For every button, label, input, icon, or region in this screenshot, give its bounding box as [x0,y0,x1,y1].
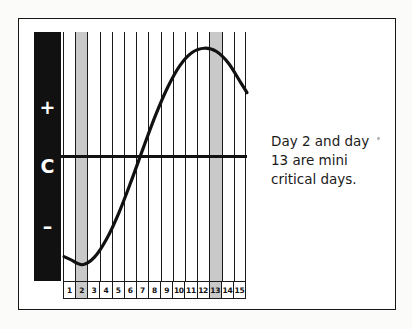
biorhythm-figure: + C – 123456789101112131415 Day 2 and da… [19,19,397,311]
day-label-1: 1 [64,282,76,298]
day-label-6: 6 [125,282,137,298]
day-label-11: 11 [185,282,197,298]
day-label-7: 7 [137,282,149,298]
day-label-10: 10 [173,282,185,298]
legend-critical-symbol: C [34,157,61,176]
day-label-4: 4 [100,282,112,298]
day-label-9: 9 [161,282,173,298]
caption-line-2: 13 are mini [271,151,391,170]
caption-line-3: critical days. [271,170,391,189]
caption-line-1: Day 2 and day [271,132,391,151]
day-label-14: 14 [222,282,234,298]
day-axis: 123456789101112131415 [63,281,246,299]
day-label-8: 8 [149,282,161,298]
day-label-2: 2 [76,282,88,298]
figure-page-frame: + C – 123456789101112131415 Day 2 and da… [18,18,396,310]
day-label-12: 12 [198,282,210,298]
day-label-5: 5 [113,282,125,298]
legend-below-baseline-symbol: – [34,217,61,236]
day-label-15: 15 [234,282,245,298]
cycle-curve [64,32,247,281]
day-label-13: 13 [210,282,222,298]
day-label-3: 3 [88,282,100,298]
cycle-curve-path [64,48,247,265]
legend-above-baseline-symbol: + [34,98,61,117]
caption-text: Day 2 and day13 are minicritical days. [271,132,391,189]
plot-area [63,32,246,281]
baseline-connector [49,155,64,158]
